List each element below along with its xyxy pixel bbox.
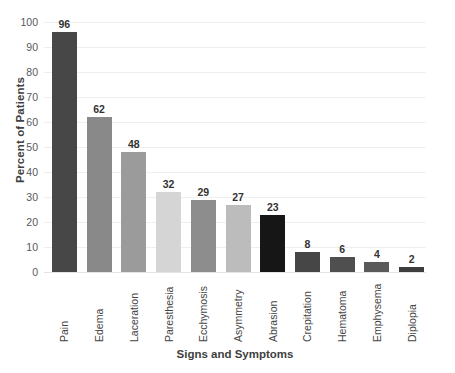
- bar[interactable]: [87, 117, 112, 272]
- x-label-slot: Emphysema: [361, 276, 392, 342]
- bar-slot: 27: [223, 22, 254, 272]
- x-label-slot: Ecchymosis: [188, 276, 219, 342]
- x-axis-category-label: Crepitation: [302, 291, 313, 342]
- bar-value-label: 29: [188, 186, 219, 198]
- bar-value-label: 23: [257, 201, 288, 213]
- y-axis-tick-label: 0: [8, 266, 38, 278]
- bar-value-label: 2: [396, 253, 427, 265]
- x-label-slot: Crepitation: [292, 276, 323, 342]
- y-axis-tick-label: 100: [8, 16, 38, 28]
- x-label-slot: Diplopia: [396, 276, 427, 342]
- bar[interactable]: [295, 252, 320, 272]
- x-axis-category-label: Paresthesia: [163, 287, 174, 342]
- bar-slot: 62: [84, 22, 115, 272]
- bar[interactable]: [121, 152, 146, 272]
- bar[interactable]: [156, 192, 181, 272]
- x-label-slot: Abrasion: [257, 276, 288, 342]
- bar-slot: 4: [361, 22, 392, 272]
- x-label-slot: Asymmetry: [223, 276, 254, 342]
- y-axis-tick-label: 90: [8, 41, 38, 53]
- bar-slot: 23: [257, 22, 288, 272]
- x-label-slot: Paresthesia: [153, 276, 184, 342]
- x-axis-category-label: Abrasion: [267, 301, 278, 342]
- x-label-slot: Pain: [49, 276, 80, 342]
- y-axis-tick-label: 70: [8, 91, 38, 103]
- y-axis-tick-label: 20: [8, 216, 38, 228]
- bar-value-label: 4: [361, 248, 392, 260]
- bar-value-label: 8: [292, 238, 323, 250]
- bar-slot: 96: [49, 22, 80, 272]
- y-axis-tick-label: 80: [8, 66, 38, 78]
- bar[interactable]: [226, 205, 251, 273]
- bar-slot: 32: [153, 22, 184, 272]
- bar-slot: 8: [292, 22, 323, 272]
- bar[interactable]: [399, 267, 424, 272]
- x-axis-category-label: Asymmetry: [233, 290, 244, 343]
- y-axis-tick-label: 10: [8, 241, 38, 253]
- bar-value-label: 27: [223, 191, 254, 203]
- x-axis-category-label: Diplopia: [406, 304, 417, 342]
- bar-value-label: 48: [118, 138, 149, 150]
- x-label-slot: Hematoma: [327, 276, 358, 342]
- bar-chart: Percent of Patients 966248322927238642 0…: [0, 0, 455, 373]
- x-axis-category-label: Emphysema: [371, 284, 382, 342]
- bar[interactable]: [364, 262, 389, 272]
- x-axis-category-label: Edema: [94, 309, 105, 342]
- bar[interactable]: [260, 215, 285, 273]
- x-label-slot: Laceration: [118, 276, 149, 342]
- x-axis-category-label: Pain: [59, 321, 70, 342]
- gridline: [44, 272, 426, 273]
- bar-slot: 48: [118, 22, 149, 272]
- bar-value-label: 62: [84, 103, 115, 115]
- plot-area: 966248322927238642: [44, 22, 426, 272]
- x-axis-title: Signs and Symptoms: [44, 348, 426, 360]
- y-axis-tick-label: 30: [8, 191, 38, 203]
- bar[interactable]: [191, 200, 216, 273]
- bar-value-label: 32: [153, 178, 184, 190]
- y-axis-tick-label: 40: [8, 166, 38, 178]
- x-axis-category-label: Laceration: [128, 293, 139, 342]
- x-axis-category-labels: PainEdemaLacerationParesthesiaEcchymosis…: [44, 276, 426, 342]
- bar-slot: 6: [327, 22, 358, 272]
- bar[interactable]: [52, 32, 77, 272]
- y-axis-tick-label: 60: [8, 116, 38, 128]
- x-axis-category-label: Hematoma: [337, 291, 348, 342]
- bar-slot: 2: [396, 22, 427, 272]
- x-label-slot: Edema: [84, 276, 115, 342]
- bar-value-label: 6: [327, 243, 358, 255]
- bar-slot: 29: [188, 22, 219, 272]
- bar-value-label: 96: [49, 18, 80, 30]
- y-axis-tick-label: 50: [8, 141, 38, 153]
- x-axis-category-label: Ecchymosis: [198, 286, 209, 342]
- bar[interactable]: [330, 257, 355, 272]
- bars-group: 966248322927238642: [44, 22, 426, 272]
